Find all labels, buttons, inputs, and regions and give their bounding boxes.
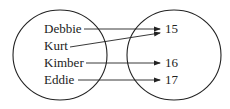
domain-item-eddie: Eddie: [44, 72, 75, 87]
range-item-16: 16: [165, 55, 179, 70]
domain-item-kurt: Kurt: [44, 38, 68, 53]
domain-item-debbie: Debbie: [44, 21, 82, 36]
mapping-diagram: Debbie Kurt Kimber Eddie 15 16 17: [0, 0, 230, 109]
range-item-15: 15: [165, 21, 178, 36]
domain-item-kimber: Kimber: [44, 55, 84, 70]
range-item-17: 17: [165, 72, 179, 87]
arrow-kurt-15: [70, 33, 160, 47]
